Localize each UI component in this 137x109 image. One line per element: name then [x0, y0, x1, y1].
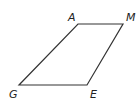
vertex-label-m: M	[126, 11, 136, 24]
vertex-label-e: E	[90, 88, 97, 101]
vertex-label-g: G	[9, 88, 18, 101]
vertex-label-a: A	[67, 11, 76, 24]
parallelogram-shape	[19, 24, 123, 85]
parallelogram-diagram: A M E G	[0, 0, 137, 109]
